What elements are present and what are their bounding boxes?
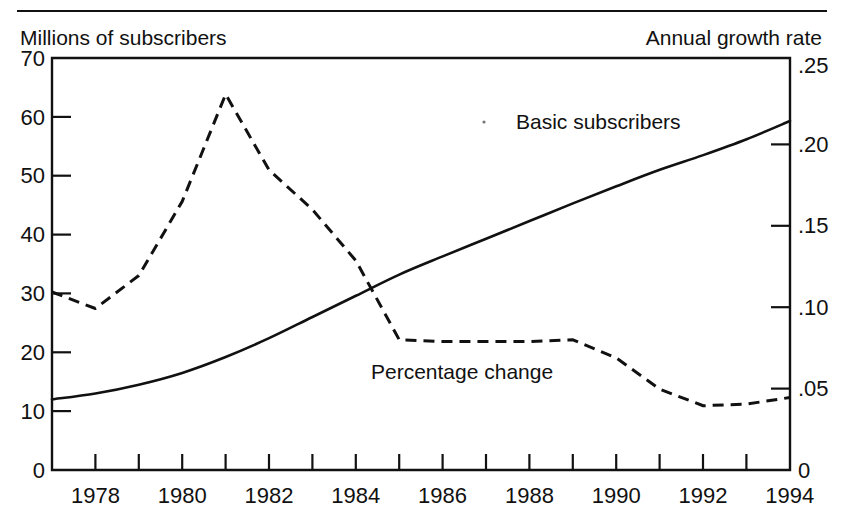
series-line-basic-subscribers — [52, 121, 790, 399]
x-tick-label: 1990 — [592, 483, 641, 508]
right-axis-tick-labels: .25 .20 .15 .10 .05 0 — [798, 53, 829, 483]
left-axis-title: Millions of subscribers — [20, 26, 227, 49]
y2-tick-label: 0 — [798, 458, 810, 483]
y-tick-label: 20 — [21, 340, 45, 365]
y-tick-label: 70 — [21, 46, 45, 71]
y-tick-label: 0 — [33, 458, 45, 483]
x-tick-label: 1992 — [679, 483, 728, 508]
series-label-basic-subscribers: Basic subscribers — [516, 110, 681, 133]
y2-tick-label: .10 — [798, 295, 829, 320]
y2-tick-label: .25 — [798, 53, 829, 78]
y2-tick-label: .05 — [798, 376, 829, 401]
series-label-percentage-change: Percentage change — [371, 360, 553, 383]
y-tick-label: 50 — [21, 163, 45, 188]
y-tick-label: 40 — [21, 222, 45, 247]
x-axis-ticks — [95, 454, 746, 470]
y-tick-label: 30 — [21, 281, 45, 306]
y2-tick-label: .15 — [798, 213, 829, 238]
dual-axis-line-chart: Millions of subscribers Annual growth ra… — [0, 0, 844, 523]
y-tick-label: 60 — [21, 105, 45, 130]
left-axis-tick-labels: 70 60 50 40 30 20 10 0 — [21, 46, 45, 483]
x-tick-label: 1980 — [158, 483, 207, 508]
x-tick-label: 1978 — [71, 483, 120, 508]
y-tick-label: 10 — [21, 399, 45, 424]
x-tick-label: 1986 — [418, 483, 467, 508]
series-line-percentage-change — [52, 94, 790, 405]
right-axis-title: Annual growth rate — [646, 26, 822, 49]
x-tick-label: 1994 — [765, 483, 814, 508]
x-tick-label: 1984 — [331, 483, 380, 508]
x-axis-tick-labels: 1978 1980 1982 1984 1986 1988 1990 1992 … — [71, 483, 814, 508]
y2-tick-label: .20 — [798, 132, 829, 157]
x-tick-label: 1982 — [245, 483, 294, 508]
figure-container: Millions of subscribers Annual growth ra… — [0, 0, 844, 523]
scan-speck — [482, 120, 485, 123]
x-tick-label: 1988 — [505, 483, 554, 508]
left-axis-ticks — [52, 117, 71, 411]
right-axis-ticks — [771, 144, 790, 388]
